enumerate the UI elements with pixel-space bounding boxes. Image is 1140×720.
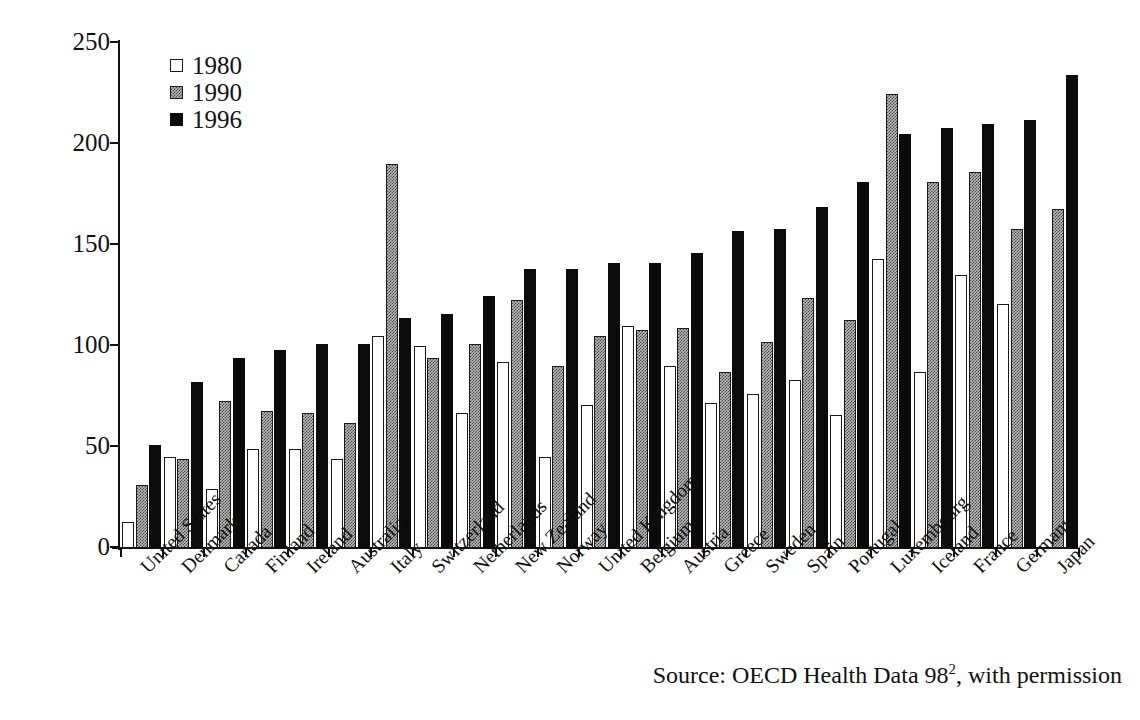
y-axis-tick-label: 150 [40,231,110,256]
bar-greece-1990 [719,372,731,548]
bar-japan-1990 [1052,209,1064,548]
bar-sweden-1990 [761,342,773,548]
bar-spain-1990 [802,298,814,548]
bar-luxembourg-1996 [899,134,911,548]
bar-germany-1996 [1024,120,1036,548]
bar-portugal-1996 [857,182,869,548]
bar-iceland-1996 [941,128,953,548]
bar-australia-1996 [358,344,370,548]
bar-belgium-1980 [622,326,634,548]
bar-iceland-1990 [927,182,939,548]
bar-luxembourg-1990 [886,94,898,549]
y-axis-tick-label: 0 [40,534,110,559]
y-axis-tick-label: 200 [40,130,110,155]
bar-switzerland-1980 [414,346,426,548]
bar-portugal-1980 [830,415,842,548]
bar-austria-1980 [664,366,676,548]
bar-united-states-1980 [122,522,134,548]
bar-united-states-1996 [149,445,161,548]
source-note: Source: OECD Health Data 982, with permi… [653,662,1122,687]
y-axis-tick-label: 50 [40,433,110,458]
source-prefix: Source: OECD Health Data 98 [653,662,949,688]
bar-austria-1996 [691,253,703,548]
bar-sweden-1996 [774,229,786,548]
bar-ireland-1996 [316,344,328,548]
legend-label-1980: 1980 [192,53,242,78]
source-superscript: 2 [949,661,956,677]
legend-item-1990: 1990 [170,79,242,106]
bar-united-kingdom-1996 [608,263,620,548]
source-suffix: , with permission [956,662,1122,688]
x-axis-tick-mark [120,548,122,557]
legend-swatch-1996 [170,113,183,126]
bar-portugal-1990 [844,320,856,548]
bar-italy-1980 [372,336,384,548]
bar-italy-1996 [399,318,411,548]
y-axis-tick-label: 250 [40,29,110,54]
bar-france-1996 [982,124,994,548]
bar-greece-1996 [732,231,744,548]
legend-label-1996: 1996 [192,107,242,132]
legend-swatch-1990 [170,86,183,99]
y-axis-tick-label: 100 [40,332,110,357]
bar-germany-1980 [997,304,1009,548]
bar-germany-1990 [1011,229,1023,548]
bar-spain-1996 [816,207,828,548]
legend-label-1990: 1990 [192,80,242,105]
bar-italy-1990 [386,164,398,548]
bar-iceland-1980 [914,372,926,548]
plot-area [118,42,1078,548]
chart-legend: 198019901996 [170,52,242,133]
bar-finland-1996 [274,350,286,548]
legend-swatch-1980 [170,59,183,72]
chart-figure: 050100150200250 United StatesDenmarkCana… [0,0,1140,720]
bar-luxembourg-1980 [872,259,884,548]
bar-japan-1996 [1066,75,1078,548]
bar-united-kingdom-1990 [594,336,606,548]
bar-united-states-1990 [136,485,148,548]
bar-switzerland-1990 [427,358,439,548]
legend-item-1996: 1996 [170,106,242,133]
bar-france-1990 [969,172,981,548]
legend-item-1980: 1980 [170,52,242,79]
bar-switzerland-1996 [441,314,453,548]
